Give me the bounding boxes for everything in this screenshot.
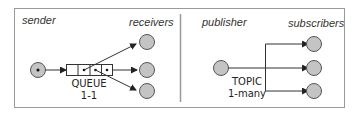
queue-box <box>67 65 113 76</box>
topic-label: TOPIC <box>231 76 262 87</box>
publisher-label: publisher <box>201 16 248 28</box>
message-dot <box>37 69 40 72</box>
message-dot <box>106 69 109 72</box>
messaging-diagram: sender receivers QUEUE 1-1 publisher <box>0 0 357 113</box>
publisher-node <box>214 61 229 76</box>
sender-label: sender <box>22 14 57 26</box>
queue-label: QUEUE <box>71 78 106 89</box>
topic-ratio: 1-many <box>228 88 266 99</box>
receivers-label: receivers <box>129 16 174 28</box>
receiver-node <box>140 84 155 99</box>
receiver-node <box>140 35 155 50</box>
subscriber-node <box>307 61 322 76</box>
subscriber-node <box>307 84 322 99</box>
subscriber-node <box>307 37 322 52</box>
subscribers-label: subscribers <box>288 17 345 29</box>
receiver-node <box>140 63 155 78</box>
queue-ratio: 1-1 <box>81 90 97 101</box>
